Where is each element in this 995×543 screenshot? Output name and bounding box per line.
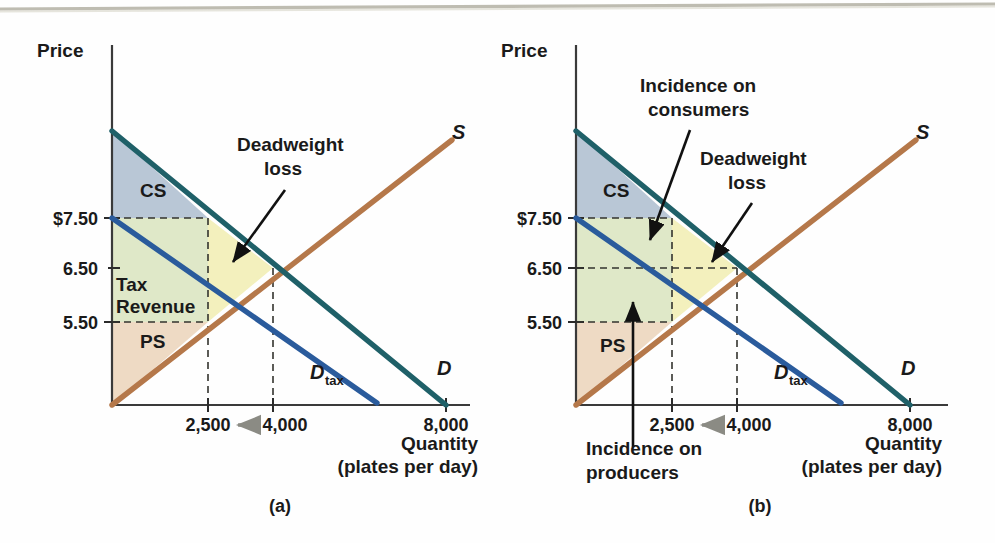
annotation-deadweight-loss-line2-b: loss <box>728 172 766 193</box>
page-edge-scan-line <box>0 4 995 12</box>
region-label-cs-a: CS <box>140 180 166 201</box>
panel-a: Price Quantity (plates per day) $7.50 6.… <box>37 40 478 516</box>
region-label-ps-b: PS <box>600 335 625 356</box>
x-axis-title-line1-a: Quantity <box>401 433 478 454</box>
x-tick-label-8000-a: 8,000 <box>423 415 468 435</box>
annotation-deadweight-loss-line2-a: loss <box>264 158 302 179</box>
x-tick-label-4000-b: 4,000 <box>726 415 771 435</box>
y-tick-label-750-a: $7.50 <box>53 209 98 229</box>
panel-caption-b: (b) <box>749 496 772 516</box>
region-label-cs-b: CS <box>603 180 629 201</box>
y-tick-label-650-b: 6.50 <box>527 259 562 279</box>
annotation-deadweight-loss-line1-b: Deadweight <box>700 148 807 169</box>
y-tick-label-650-a: 6.50 <box>63 259 98 279</box>
x-tick-label-8000-b: 8,000 <box>887 415 932 435</box>
annotation-incidence-consumers-line1-b: Incidence on <box>640 75 756 96</box>
figure-canvas: Price Quantity (plates per day) $7.50 6.… <box>0 0 995 543</box>
region-label-tax-revenue-line1-a: Tax <box>116 274 148 295</box>
tax-incidence-figure: Price Quantity (plates per day) $7.50 6.… <box>0 0 995 543</box>
annotation-arrow-deadweight-loss-b <box>712 203 752 262</box>
x-axis-title-line2-a: (plates per day) <box>338 456 478 477</box>
x-axis-title-line1-b: Quantity <box>865 433 942 454</box>
y-tick-label-550-a: 5.50 <box>63 313 98 333</box>
demand-curve-label-a: D <box>437 357 451 379</box>
y-axis-title-a: Price <box>37 40 83 61</box>
supply-curve-label-b: S <box>916 121 930 143</box>
y-tick-label-550-b: 5.50 <box>527 313 562 333</box>
region-tax-incidence-b <box>576 218 672 322</box>
supply-curve-label-a: S <box>452 121 466 143</box>
region-label-tax-revenue-line2-a: Revenue <box>116 296 195 317</box>
demand-tax-label-subscript-b: tax <box>789 373 809 388</box>
y-tick-label-750-b: $7.50 <box>517 209 562 229</box>
annotation-incidence-consumers-line2-b: consumers <box>648 99 749 120</box>
x-axis-title-line2-b: (plates per day) <box>802 456 942 477</box>
panel-b: Price Quantity (plates per day) $7.50 6.… <box>501 40 948 516</box>
x-tick-label-4000-a: 4,000 <box>262 415 307 435</box>
y-axis-title-b: Price <box>501 40 547 61</box>
annotation-deadweight-loss-line1-a: Deadweight <box>237 134 344 155</box>
annotation-incidence-producers-line1-b: Incidence on <box>586 438 702 459</box>
demand-tax-label-main-b: D <box>774 361 788 383</box>
demand-tax-label-main: D <box>310 361 324 383</box>
annotation-incidence-producers-line2-b: producers <box>586 462 679 483</box>
x-tick-label-2500-b: 2,500 <box>649 415 694 435</box>
demand-curve-label-b: D <box>901 357 915 379</box>
demand-tax-label-subscript: tax <box>325 373 345 388</box>
region-label-ps-a: PS <box>140 331 165 352</box>
panel-caption-a: (a) <box>269 496 291 516</box>
x-tick-label-2500-a: 2,500 <box>185 415 230 435</box>
